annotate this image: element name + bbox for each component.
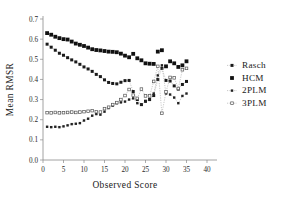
data-point — [140, 88, 143, 91]
y-tick-label: 0.0 — [29, 157, 38, 165]
data-point — [46, 126, 48, 128]
data-point — [79, 111, 82, 114]
data-point — [173, 84, 176, 87]
data-point — [140, 58, 144, 62]
data-point — [181, 63, 185, 67]
y-tick-label: 0.4 — [29, 76, 38, 84]
chart-container: 0.00.10.20.30.40.50.60.7 051015202530354… — [0, 0, 287, 201]
x-axis-ticks: 0510152025303540 — [41, 160, 211, 174]
data-point — [103, 107, 106, 110]
data-point — [107, 81, 110, 84]
data-point — [120, 98, 123, 101]
legend-item-hcm[interactable]: HCM — [230, 73, 264, 83]
data-point — [128, 79, 131, 82]
data-point — [144, 100, 146, 102]
y-axis-title: Mean RMSR — [5, 62, 15, 116]
data-point — [103, 110, 105, 112]
data-point — [99, 75, 102, 78]
data-point — [74, 42, 78, 46]
data-point — [99, 111, 102, 114]
data-point — [91, 109, 94, 112]
data-point — [124, 94, 127, 97]
data-point — [91, 70, 94, 73]
y-tick-label: 0.7 — [29, 16, 38, 24]
y-tick-label: 0.6 — [29, 36, 38, 44]
data-point — [87, 110, 90, 113]
data-point — [111, 103, 114, 106]
data-point — [136, 102, 138, 104]
data-point — [50, 112, 53, 115]
data-point — [66, 56, 69, 59]
data-point — [181, 68, 184, 71]
data-point — [66, 111, 69, 114]
data-point — [95, 73, 98, 76]
data-point — [119, 52, 123, 56]
x-tick-label: 35 — [183, 166, 191, 174]
data-point — [87, 67, 90, 70]
data-point — [79, 122, 81, 124]
data-point — [111, 82, 114, 85]
data-point — [86, 46, 90, 50]
data-point — [168, 59, 172, 63]
data-point — [161, 112, 164, 115]
data-point — [46, 43, 49, 46]
data-point — [177, 102, 179, 104]
data-point — [54, 126, 56, 128]
data-point — [107, 50, 111, 54]
data-point — [58, 52, 61, 55]
data-point — [83, 119, 85, 121]
data-point — [58, 126, 60, 128]
data-point — [83, 110, 86, 113]
data-point — [140, 103, 142, 105]
data-point — [54, 111, 57, 114]
data-point — [181, 83, 184, 86]
data-point — [132, 94, 135, 97]
data-series-layer — [45, 31, 188, 128]
data-point — [124, 100, 126, 102]
x-tick-label: 30 — [162, 166, 170, 174]
data-point — [124, 79, 127, 82]
legend-item-rasch[interactable]: Rasch — [227, 60, 266, 70]
data-point — [231, 102, 234, 105]
data-point — [91, 114, 93, 116]
data-point — [119, 81, 122, 84]
data-point — [169, 76, 172, 79]
data-point — [131, 52, 135, 56]
y-tick-label: 0.2 — [29, 116, 38, 124]
data-point — [148, 62, 152, 66]
data-point — [165, 91, 168, 94]
series-3plm — [46, 65, 188, 115]
data-point — [58, 36, 62, 40]
legend-item-2plm[interactable]: 2PLM — [227, 85, 267, 95]
data-point — [164, 64, 168, 68]
data-point — [132, 90, 135, 93]
series-2plm — [46, 64, 188, 128]
data-point — [132, 97, 134, 99]
y-tick-label: 0.3 — [29, 96, 38, 104]
data-point — [230, 76, 234, 80]
legend-label-rasch: Rasch — [242, 60, 266, 70]
x-tick-label: 0 — [41, 166, 45, 174]
data-point — [128, 88, 131, 91]
data-point — [107, 106, 110, 109]
data-point — [71, 123, 73, 125]
data-point — [144, 61, 148, 65]
data-point — [74, 60, 77, 63]
data-point — [103, 49, 107, 53]
data-point — [45, 31, 49, 35]
y-axis-ticks: 0.00.10.20.30.40.50.60.7 — [29, 16, 43, 165]
data-point — [152, 80, 155, 83]
data-point — [49, 33, 53, 37]
data-point — [53, 35, 57, 39]
data-point — [185, 80, 188, 83]
legend-item-3plm[interactable]: 3PLM — [227, 98, 267, 108]
data-point — [153, 92, 155, 94]
data-point — [231, 64, 234, 67]
data-point — [62, 54, 65, 57]
data-point — [160, 48, 164, 52]
data-point — [66, 38, 70, 42]
data-point — [173, 96, 175, 98]
data-point — [127, 55, 131, 59]
legend-label-3plm: 3PLM — [242, 98, 267, 108]
legend-label-2plm: 2PLM — [242, 85, 267, 95]
